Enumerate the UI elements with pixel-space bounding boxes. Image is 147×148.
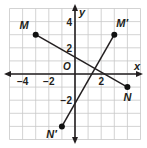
y-tick-label: 4 xyxy=(66,17,72,28)
point-M xyxy=(33,32,39,38)
x-axis-left-arrow-icon xyxy=(4,71,11,77)
point-N-prime xyxy=(59,123,65,129)
x-tick-label: −4 xyxy=(17,76,29,87)
y-axis-label: y xyxy=(78,6,86,18)
point-M-prime xyxy=(111,32,117,38)
y-tick-label: −2 xyxy=(61,95,73,106)
x-tick-label: 2 xyxy=(98,76,104,87)
point-label-N-prime: N′ xyxy=(46,128,58,140)
point-label-M-prime: M′ xyxy=(116,17,129,29)
y-axis-down-arrow-icon xyxy=(72,137,78,144)
y-axis-up-arrow-icon xyxy=(72,4,78,11)
point-label-M: M xyxy=(20,19,30,31)
x-tick-label: −2 xyxy=(43,76,55,87)
point-N xyxy=(124,84,130,90)
points: MNM′N′ xyxy=(20,17,133,141)
coordinate-plane: −4−2242−2 x y O MNM′N′ xyxy=(0,0,147,148)
point-label-N: N xyxy=(123,91,132,103)
tick-labels: −4−2242−2 xyxy=(17,17,105,107)
x-axis-label: x xyxy=(133,60,141,72)
origin-label: O xyxy=(63,61,71,72)
